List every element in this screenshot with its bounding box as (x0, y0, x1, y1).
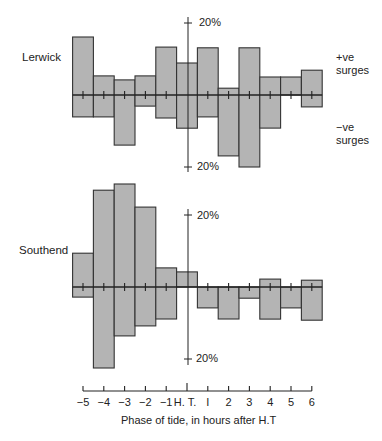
lerwick-bottom-scale-label: 20% (197, 160, 219, 173)
x-tick-label: 4 (267, 396, 273, 408)
positive-surges-line1: +ve (336, 51, 369, 64)
bar-southend--3 (114, 184, 135, 336)
bar-lerwick-3 (239, 48, 260, 167)
bar-lerwick-1 (197, 48, 218, 117)
x-axis-title: Phase of tide, in hours after H.T (121, 414, 276, 427)
x-tick-label: 5 (288, 396, 294, 408)
southend-top-scale-label: 20% (197, 209, 219, 222)
x-tick-label: −2 (139, 396, 152, 408)
x-tick-label: −3 (118, 396, 131, 408)
positive-surges-label: +ve surges (336, 51, 369, 77)
x-tick-label: −5 (77, 396, 90, 408)
bar-lerwick--1 (156, 47, 177, 118)
x-tick-label: −4 (98, 396, 111, 408)
bar-lerwick-6 (301, 70, 322, 107)
negative-surges-line1: −ve (336, 121, 369, 134)
bar-lerwick--3 (114, 80, 135, 145)
negative-surges-line2: surges (336, 134, 369, 147)
bar-southend--1 (156, 268, 177, 319)
x-tick-label: 6 (309, 396, 315, 408)
surge-phase-chart (0, 0, 382, 441)
x-tick-label: 2 (226, 396, 232, 408)
southend-label: Southend (19, 244, 68, 257)
southend-bottom-scale-label: 20% (196, 352, 218, 365)
x-tick-label: 3 (246, 396, 252, 408)
positive-surges-line2: surges (336, 64, 369, 77)
x-axis (83, 383, 312, 391)
bar-southend-2 (218, 287, 239, 319)
bar-southend--4 (93, 190, 114, 368)
x-tick-label: −1 (160, 396, 173, 408)
bar-southend--2 (135, 207, 156, 326)
negative-surges-label: −ve surges (336, 121, 369, 147)
lerwick-label: Lerwick (22, 51, 61, 64)
x-tick-label: H. T. (174, 396, 196, 408)
bar-lerwick--5 (73, 37, 94, 117)
bar-southend-0 (177, 272, 198, 287)
bar-lerwick-4 (260, 77, 281, 128)
lerwick-panel (73, 17, 323, 172)
x-tick-label: I (206, 396, 209, 408)
lerwick-top-scale-label: 20% (199, 16, 221, 29)
